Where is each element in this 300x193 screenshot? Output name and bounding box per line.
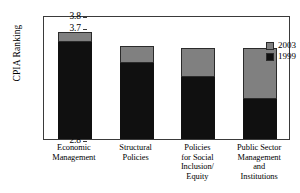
x-axis-category-label-line: Management (223, 153, 295, 163)
bar-column (58, 15, 92, 139)
bar-segment-1999 (120, 63, 154, 139)
x-axis-category-label-line: Public Sector (223, 143, 295, 153)
chart-legend: 20031999 (266, 41, 296, 61)
legend-swatch-icon (266, 42, 274, 50)
bar-column (120, 15, 154, 139)
legend-item: 2003 (266, 41, 296, 50)
bar-column (181, 15, 215, 139)
plot-area: 3.83.73.63.53.43.33.23.13.02.92.8 200319… (43, 16, 290, 140)
x-axis-category-label-line: Institutions (223, 172, 295, 182)
y-axis-title: CPIA Ranking (12, 0, 22, 108)
x-axis-category-label: Public SectorManagementandInstitutions (223, 143, 295, 181)
legend-label: 2003 (278, 41, 296, 50)
bar-segment-2003 (120, 46, 154, 63)
bar-segment-1999 (243, 99, 277, 139)
legend-item: 1999 (266, 52, 296, 61)
bar-column (243, 15, 277, 139)
legend-swatch-icon (266, 53, 274, 61)
cpia-ranking-bar-chart: CPIA Ranking 3.83.73.63.53.43.33.23.13.0… (0, 0, 300, 193)
bar-segment-2003 (58, 32, 92, 42)
legend-label: 1999 (278, 52, 296, 61)
bar-segment-2003 (181, 48, 215, 77)
y-axis-tick-mark (83, 141, 87, 142)
bar-segment-1999 (58, 42, 92, 139)
x-axis-category-label-line: and (223, 162, 295, 172)
bar-segment-1999 (181, 77, 215, 139)
